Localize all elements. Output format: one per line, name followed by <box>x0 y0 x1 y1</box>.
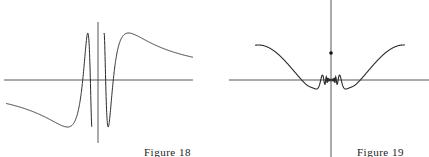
figure-19-caption: Figure 19 <box>357 146 404 157</box>
figure-18-caption: Figure 18 <box>144 146 191 157</box>
figure-19-plot <box>229 0 429 157</box>
figures-canvas <box>0 0 429 157</box>
figure-19-isolated-point <box>329 51 333 55</box>
figure-18-plot <box>4 22 193 143</box>
